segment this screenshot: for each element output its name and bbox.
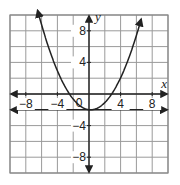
x-tick-label: −4 [51, 97, 65, 111]
origin-label: 0 [76, 96, 83, 110]
graph-plot: −8−44884−4−80xy [0, 0, 180, 185]
axes [11, 16, 167, 172]
x-tick-label: −8 [19, 97, 33, 111]
x-axis-label: x [160, 76, 167, 91]
y-axis-label: y [93, 9, 101, 24]
y-tick-label: 8 [79, 24, 86, 38]
x-tick-label: 8 [149, 97, 156, 111]
y-tick-label: −4 [72, 119, 86, 133]
x-tick-label: 4 [117, 97, 124, 111]
y-tick-label: −8 [72, 150, 86, 164]
y-tick-label: 4 [79, 55, 86, 69]
